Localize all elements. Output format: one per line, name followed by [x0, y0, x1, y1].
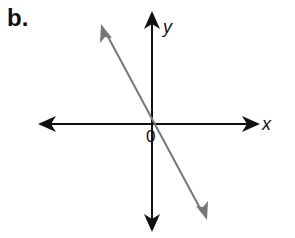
plotted-line	[100, 24, 208, 220]
y-axis	[144, 11, 160, 232]
y-axis-label: y	[161, 17, 173, 37]
x-axis-label: x	[261, 114, 272, 134]
coordinate-plane: y x 0	[0, 0, 295, 238]
origin-label: 0	[146, 127, 155, 146]
